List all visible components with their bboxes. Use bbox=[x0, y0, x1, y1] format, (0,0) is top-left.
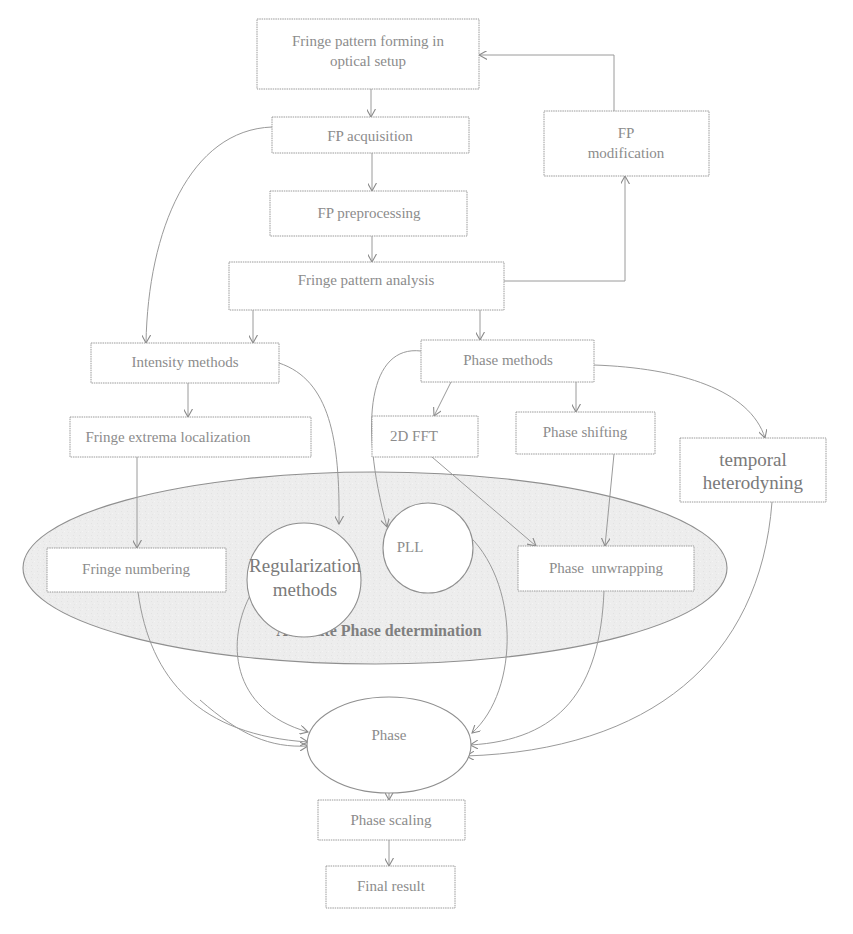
edge-phase-methods-fft bbox=[434, 382, 451, 416]
node-phase-label: Phase bbox=[372, 727, 407, 743]
edge-analysis-modification bbox=[504, 176, 625, 281]
node-fp-preprocessing: FP preprocessing bbox=[270, 191, 467, 236]
node-temporal-heterodyning: temporal heterodyning bbox=[680, 438, 826, 502]
node-fp-analysis: Fringe pattern analysis bbox=[229, 262, 504, 310]
node-fp-acquisition-label: FP acquisition bbox=[327, 128, 413, 144]
node-phase-methods: Phase methods bbox=[421, 340, 594, 382]
node-fp-forming: Fringe pattern forming in optical setup bbox=[257, 19, 479, 89]
node-fringe-extrema: Fringe extrema localization bbox=[70, 417, 311, 457]
node-phase-scaling: Phase scaling bbox=[318, 800, 465, 840]
node-final-result: Final result bbox=[326, 866, 455, 908]
node-fp-forming-line1: Fringe pattern forming in bbox=[292, 33, 445, 49]
node-phase: Phase bbox=[307, 697, 471, 793]
node-fp-forming-line2: optical setup bbox=[330, 53, 406, 69]
node-phase-scaling-label: Phase scaling bbox=[350, 812, 432, 828]
node-intensity-methods: Intensity methods bbox=[91, 343, 279, 383]
fringe-pattern-analysis-flowchart: Absolute Phase determination bbox=[0, 0, 853, 934]
node-fp-modification-line2: modification bbox=[588, 145, 665, 161]
node-fp-modification-line1: FP bbox=[618, 125, 635, 141]
node-fringe-extrema-label: Fringe extrema localization bbox=[86, 429, 251, 445]
node-phase-unwrapping: Phase unwrapping bbox=[518, 546, 694, 591]
node-regularization-line2: methods bbox=[273, 579, 337, 600]
node-pll: PLL bbox=[383, 503, 473, 593]
node-temporal-heterodyning-line2: heterodyning bbox=[703, 472, 804, 493]
node-fringe-numbering-label: Fringe numbering bbox=[82, 561, 190, 577]
node-phase-shifting: Phase shifting bbox=[516, 412, 655, 454]
edge-modification-forming bbox=[479, 55, 614, 111]
node-regularization-line1: Regularization bbox=[249, 555, 361, 576]
node-phase-shifting-label: Phase shifting bbox=[543, 424, 628, 440]
node-fp-analysis-label: Fringe pattern analysis bbox=[298, 272, 435, 288]
node-intensity-methods-label: Intensity methods bbox=[131, 354, 238, 370]
node-phase-unwrapping-label: Phase unwrapping bbox=[549, 560, 664, 576]
node-fp-acquisition: FP acquisition bbox=[272, 117, 469, 153]
node-phase-methods-label: Phase methods bbox=[463, 352, 553, 368]
edge-left-phase bbox=[200, 700, 308, 746]
node-pll-label: PLL bbox=[397, 539, 424, 555]
node-regularization-methods: Regularization methods bbox=[247, 523, 361, 637]
node-temporal-heterodyning-line1: temporal bbox=[719, 449, 787, 470]
node-2d-fft: 2D FFT bbox=[372, 416, 478, 457]
node-fp-modification: FP modification bbox=[544, 111, 709, 176]
node-final-result-label: Final result bbox=[357, 878, 426, 894]
node-2d-fft-label: 2D FFT bbox=[390, 428, 438, 444]
node-fp-preprocessing-label: FP preprocessing bbox=[317, 205, 421, 221]
node-fringe-numbering: Fringe numbering bbox=[47, 548, 226, 592]
